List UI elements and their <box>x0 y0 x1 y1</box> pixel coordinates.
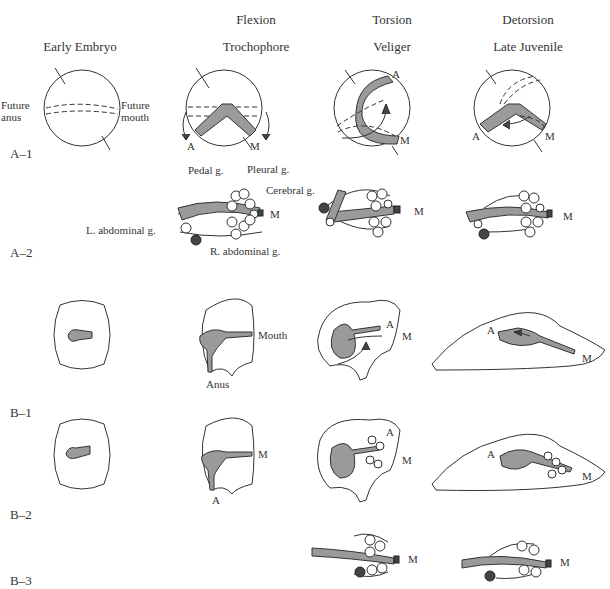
b1-veliger <box>318 300 400 380</box>
a1-early-embryo <box>44 68 120 150</box>
label-anus: Anus <box>206 378 229 390</box>
a1-veliger <box>334 70 410 155</box>
label-future-mouth: Future mouth <box>121 99 150 123</box>
a2-trochophore-nerves <box>178 189 263 245</box>
label-b2-juvenile-mouth-abbr: M <box>582 470 592 482</box>
label-pedal-ganglion: Pedal g. <box>188 164 223 176</box>
b2-early-embryo <box>54 419 110 489</box>
label-b3-juvenile-mouth-abbr: M <box>560 556 570 568</box>
a2-veliger-nerves <box>319 189 400 237</box>
a2-late-juvenile-nerves <box>466 191 552 239</box>
a1-late-juvenile <box>474 70 550 152</box>
label-future-anus: Future anus <box>1 99 30 123</box>
label-juvenile-nerve-mouth: M <box>563 210 573 222</box>
label-mouth: Mouth <box>258 329 287 341</box>
b2-trochophore <box>202 418 254 494</box>
label-b1-juvenile-anus-abbr: A <box>487 324 495 336</box>
b3-veliger-nerves <box>312 534 399 577</box>
label-juvenile-mouth-abbr: M <box>545 130 555 142</box>
label-future-mouth-line1: Future <box>121 99 150 111</box>
label-b1-veliger-anus-abbr: A <box>386 318 394 330</box>
b1-late-juvenile <box>432 313 605 370</box>
label-veliger-anus-abbr: A <box>392 68 400 80</box>
label-troch-mouth-abbr: M <box>250 140 260 152</box>
label-troch-anus-abbr: A <box>187 140 195 152</box>
label-l-abdominal-ganglion: L. abdominal g. <box>86 224 156 236</box>
label-b2-troch-anus-abbr: A <box>212 494 220 506</box>
b3-late-juvenile-nerves <box>462 541 551 581</box>
b2-late-juvenile <box>432 434 605 490</box>
label-b1-juvenile-mouth-abbr: M <box>582 352 592 364</box>
label-cerebral-ganglion: Cerebral g. <box>266 184 315 196</box>
a1-trochophore <box>182 68 270 148</box>
label-b2-troch-mouth-abbr: M <box>258 448 268 460</box>
label-future-anus-line2: anus <box>1 111 30 123</box>
label-juvenile-anus-abbr: A <box>472 130 480 142</box>
label-troch-nerve-mouth: M <box>270 208 280 220</box>
b1-trochophore <box>200 299 254 376</box>
label-b2-veliger-anus-abbr: A <box>386 426 394 438</box>
label-future-mouth-line2: mouth <box>121 111 150 123</box>
label-r-abdominal-ganglion: R. abdominal g. <box>210 245 280 257</box>
label-veliger-mouth-abbr: M <box>400 134 410 146</box>
b1-early-embryo <box>54 301 110 370</box>
label-future-anus-line1: Future <box>1 99 30 111</box>
label-veliger-nerve-mouth: M <box>414 205 424 217</box>
label-b2-veliger-mouth-abbr: M <box>402 454 412 466</box>
label-pleural-ganglion: Pleural g. <box>247 163 289 175</box>
label-b2-juvenile-anus-abbr: A <box>487 448 495 460</box>
label-b3-veliger-mouth-abbr: M <box>408 553 418 565</box>
label-b1-veliger-mouth-abbr: M <box>402 330 412 342</box>
